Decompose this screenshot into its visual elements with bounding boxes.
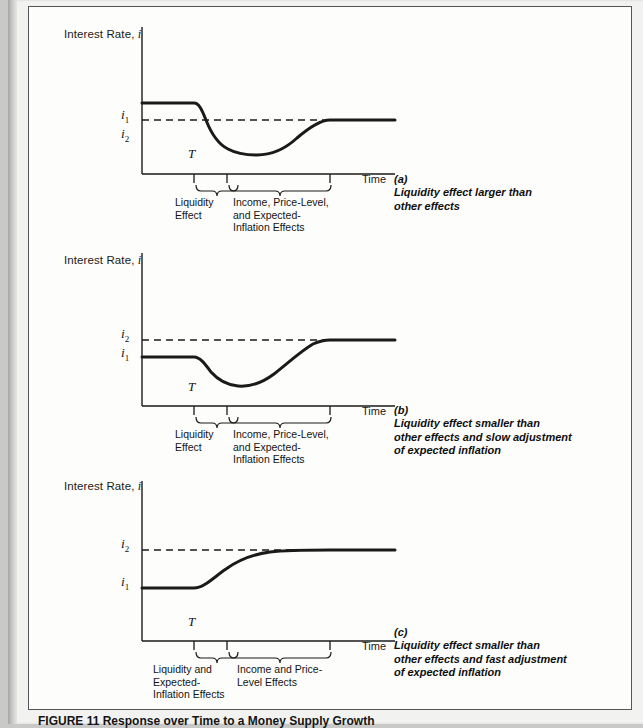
figure-caption-title: Response over Time to a Money Supply Gro… [103, 714, 375, 728]
brace-other-c [229, 652, 331, 663]
rate-path-a [142, 103, 395, 155]
brace-other-a [229, 185, 331, 196]
panel-b: Interest Rate, i i2 i1 T Time Liquidity … [29, 233, 633, 469]
book-page: Interest Rate, i i1 i2 T Time Liquidity … [8, 0, 643, 724]
panel-c: Interest Rate, i i2 i1 T Time Liquidity … [29, 457, 633, 693]
panel-a: Interest Rate, i i1 i2 T Time Liquidity … [29, 7, 633, 243]
brace-other-b [229, 417, 331, 428]
page-gutter [8, 0, 17, 724]
figure-caption: FIGURE 11 Response over Time to a Money … [38, 714, 638, 728]
chart-svg-b [29, 233, 633, 469]
rate-path-c [142, 550, 395, 588]
figure-caption-label: FIGURE 11 [38, 714, 99, 728]
chart-svg-c [29, 457, 633, 693]
rate-path-b [142, 340, 395, 386]
figure-frame: Interest Rate, i i1 i2 T Time Liquidity … [28, 6, 632, 710]
chart-svg-a [29, 7, 633, 243]
